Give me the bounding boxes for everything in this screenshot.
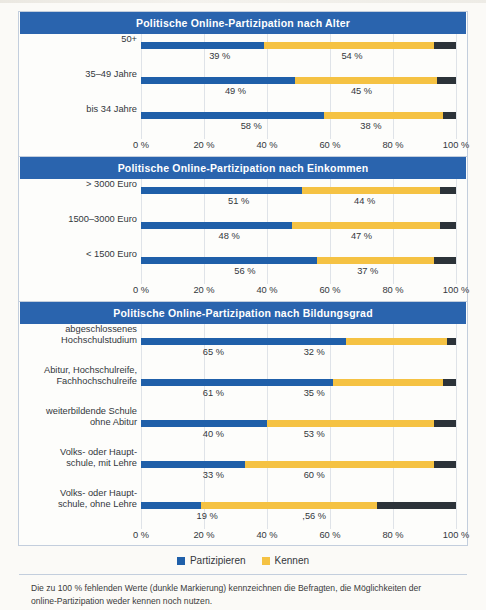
plot-einkommen: > 3000 Euro 51 % 44 % xyxy=(19,179,467,301)
segment-weder xyxy=(443,112,456,119)
footnote-line: Die zu 100 % fehlenden Werte (dunkle Mar… xyxy=(31,582,455,595)
segment-kennen xyxy=(295,77,437,84)
bar-row: > 3000 Euro 51 % 44 % xyxy=(19,179,467,214)
axis-tick: 20 % xyxy=(193,140,214,150)
stacked-bar xyxy=(141,42,456,49)
axis-tick: 80 % xyxy=(382,530,403,540)
panel-body-bildungsgrad: abgeschlossenes Hochschulstudium xyxy=(19,324,467,610)
category-label-line: Volks- oder Haupt- xyxy=(19,488,137,499)
bar-track: 65 % 32 % xyxy=(141,324,456,365)
value-labels: 58 % 38 % xyxy=(141,121,456,135)
segment-kennen xyxy=(245,461,434,468)
value-labels: 19 % ,56 % xyxy=(141,511,456,525)
category-label-line: 50+ xyxy=(19,34,137,45)
segment-partizipieren xyxy=(141,77,295,84)
segment-weder xyxy=(434,257,456,264)
stacked-bar xyxy=(141,222,456,229)
value-label-blue: 58 % xyxy=(241,121,262,131)
bar-row: Abitur, Hochschulreife, Fachhochschulrei… xyxy=(19,365,467,406)
value-label-yellow: 47 % xyxy=(351,231,372,241)
value-label-yellow: 54 % xyxy=(341,51,362,61)
axis-tick: 100 % xyxy=(443,285,469,295)
legend-label: Kennen xyxy=(275,555,309,566)
category-label-line: Hochschulstudium xyxy=(19,335,137,346)
value-label-blue: 48 % xyxy=(219,231,240,241)
category-label-line: 1500–3000 Euro xyxy=(19,214,137,225)
bar-track: 61 % 35 % xyxy=(141,365,456,406)
stacked-bar xyxy=(141,77,456,84)
segment-weder xyxy=(443,379,456,386)
segment-partizipieren xyxy=(141,42,264,49)
segment-weder xyxy=(447,338,456,345)
segment-partizipieren xyxy=(141,338,346,345)
stacked-bar xyxy=(141,112,456,119)
value-label-blue: 56 % xyxy=(234,266,255,276)
chart-sheet: Politische Online-Partizipation nach Alt… xyxy=(18,11,468,546)
segment-kennen xyxy=(324,112,444,119)
value-label-blue: 51 % xyxy=(228,196,249,206)
panel-einkommen: Politische Online-Partizipation nach Ein… xyxy=(19,157,467,301)
stacked-bar xyxy=(141,461,456,468)
stacked-bar xyxy=(141,187,456,194)
legend-swatch-icon xyxy=(177,557,185,565)
plot-bildungsgrad: abgeschlossenes Hochschulstudium xyxy=(19,324,467,546)
bar-row: Volks- oder Haupt- schule, ohne Lehre xyxy=(19,488,467,529)
category-label-line: > 3000 Euro xyxy=(19,179,137,190)
legend-item-kennen: Kennen xyxy=(262,555,309,566)
category-label-line: < 1500 Euro xyxy=(19,249,137,260)
value-label-yellow: ,56 % xyxy=(302,511,326,521)
category-label: abgeschlossenes Hochschulstudium xyxy=(19,324,137,346)
category-label-line: bis 34 Jahre xyxy=(19,104,137,115)
axis-track: 0 % 20 % 40 % 60 % 80 % 100 % xyxy=(141,529,456,546)
segment-partizipieren xyxy=(141,257,317,264)
legend-item-partizipieren: Partizipieren xyxy=(177,555,246,566)
value-labels: 33 % 60 % xyxy=(141,470,456,484)
value-label-yellow: 32 % xyxy=(304,347,325,357)
bar-track: 40 % 53 % xyxy=(141,406,456,447)
bar-row: weiterbildende Schule ohne Abitur xyxy=(19,406,467,447)
segment-partizipieren xyxy=(141,461,245,468)
axis-tick: 20 % xyxy=(193,530,214,540)
category-label: weiterbildende Schule ohne Abitur xyxy=(19,406,137,428)
value-label-blue: 33 % xyxy=(203,470,224,480)
segment-weder xyxy=(434,461,456,468)
segment-weder xyxy=(434,420,456,427)
segment-weder xyxy=(440,222,456,229)
value-label-yellow: 60 % xyxy=(304,470,325,480)
stacked-bar xyxy=(141,379,456,386)
value-labels: 51 % 44 % xyxy=(141,196,456,210)
bar-track: 33 % 60 % xyxy=(141,447,456,488)
axis-tick: 100 % xyxy=(443,530,469,540)
bar-track: 58 % 38 % xyxy=(141,104,456,139)
panel-title-alter: Politische Online-Partizipation nach Alt… xyxy=(20,12,466,34)
category-label-line: schule, ohne Lehre xyxy=(19,499,137,510)
stacked-bar xyxy=(141,420,456,427)
value-label-blue: 49 % xyxy=(225,86,246,96)
axis-tick: 40 % xyxy=(256,530,277,540)
stacked-bar xyxy=(141,338,456,345)
footnote-line: online-Partizipation weder kennen noch n… xyxy=(31,595,455,608)
bar-track: 49 % 45 % xyxy=(141,69,456,104)
bar-row: Volks- oder Haupt- schule, mit Lehre xyxy=(19,447,467,488)
value-label-blue: 19 % xyxy=(197,511,218,521)
category-label-line: ohne Abitur xyxy=(19,417,137,428)
legend: Partizipieren Kennen xyxy=(19,546,467,574)
panel-body-einkommen: > 3000 Euro 51 % 44 % xyxy=(19,179,467,301)
bar-row: 50+ 39 % 54 % xyxy=(19,34,467,69)
axis-tick: 0 % xyxy=(133,140,149,150)
footnote: Die zu 100 % fehlenden Werte (dunkle Mar… xyxy=(19,574,467,610)
category-label: 1500–3000 Euro xyxy=(19,214,137,225)
segment-kennen xyxy=(302,187,441,194)
axis-tick: 60 % xyxy=(319,285,340,295)
segment-partizipieren xyxy=(141,420,267,427)
x-axis: 0 % 20 % 40 % 60 % 80 % 100 % xyxy=(19,529,467,546)
category-label: 35–49 Jahre xyxy=(19,69,137,80)
bar-row: 1500–3000 Euro 48 % 47 % xyxy=(19,214,467,249)
segment-partizipieren xyxy=(141,502,201,509)
category-label: bis 34 Jahre xyxy=(19,104,137,115)
axis-tick: 0 % xyxy=(133,285,149,295)
category-label-line: 35–49 Jahre xyxy=(19,69,137,80)
value-labels: 48 % 47 % xyxy=(141,231,456,245)
category-label: > 3000 Euro xyxy=(19,179,137,190)
segment-weder xyxy=(377,502,456,509)
